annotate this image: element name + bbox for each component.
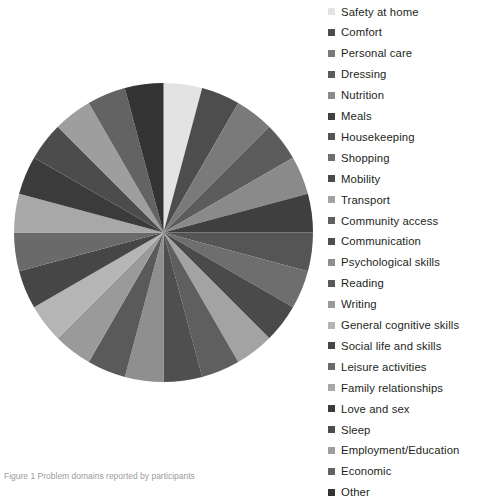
legend-swatch-icon: [328, 301, 335, 308]
legend-item-label: Communication: [341, 235, 421, 247]
legend-item[interactable]: Mobility: [328, 168, 380, 189]
legend-item-label: Love and sex: [341, 403, 410, 415]
legend-item-label: Writing: [341, 298, 377, 310]
legend-item[interactable]: Community access: [328, 210, 438, 231]
legend-swatch-icon: [328, 175, 335, 182]
legend-swatch-icon: [328, 342, 335, 349]
legend-swatch-icon: [328, 468, 335, 475]
legend-item[interactable]: Comfort: [328, 22, 382, 43]
legend-swatch-icon: [328, 133, 335, 140]
legend-swatch-icon: [328, 196, 335, 203]
legend-swatch-icon: [328, 322, 335, 329]
legend-item-label: Transport: [341, 194, 390, 206]
legend-item-label: Employment/Education: [341, 444, 459, 456]
legend-item[interactable]: Love and sex: [328, 398, 410, 419]
legend-item-label: Psychological skills: [341, 256, 440, 268]
legend-swatch-icon: [328, 154, 335, 161]
legend-item[interactable]: Family relationships: [328, 377, 443, 398]
legend-item[interactable]: Social life and skills: [328, 335, 441, 356]
legend-swatch-icon: [328, 405, 335, 412]
legend-item[interactable]: General cognitive skills: [328, 315, 459, 336]
legend-swatch-icon: [328, 217, 335, 224]
legend-item[interactable]: Meals: [328, 106, 372, 127]
legend-item-label: Nutrition: [341, 89, 384, 101]
legend-item-label: Dressing: [341, 68, 386, 80]
legend-swatch-icon: [328, 259, 335, 266]
figure-caption: Figure 1 Problem domains reported by par…: [4, 471, 304, 482]
legend-item[interactable]: Transport: [328, 189, 390, 210]
legend-swatch-icon: [328, 489, 335, 496]
legend-item-label: Reading: [341, 277, 384, 289]
legend-item[interactable]: Sleep: [328, 419, 370, 440]
legend-item[interactable]: Employment/Education: [328, 440, 459, 461]
legend-item[interactable]: Shopping: [328, 147, 390, 168]
legend-item-label: Economic: [341, 465, 392, 477]
legend-item-label: Leisure activities: [341, 361, 427, 373]
legend-item[interactable]: Writing: [328, 294, 377, 315]
legend-item-label: Comfort: [341, 26, 382, 38]
legend-swatch-icon: [328, 238, 335, 245]
legend-item[interactable]: Safety at home: [328, 1, 419, 22]
legend-swatch-icon: [328, 92, 335, 99]
legend-swatch-icon: [328, 384, 335, 391]
legend-item[interactable]: Communication: [328, 231, 421, 252]
legend-swatch-icon: [328, 280, 335, 287]
legend-item[interactable]: Leisure activities: [328, 356, 427, 377]
legend-item-label: Mobility: [341, 173, 380, 185]
legend-item[interactable]: Other: [328, 482, 370, 500]
legend-item-label: Social life and skills: [341, 340, 441, 352]
pie-chart-svg: [14, 83, 313, 382]
legend-item[interactable]: Dressing: [328, 64, 386, 85]
legend-item-label: Personal care: [341, 47, 412, 59]
legend-item-label: Other: [341, 486, 370, 498]
legend-item-label: General cognitive skills: [341, 319, 459, 331]
legend-swatch-icon: [328, 363, 335, 370]
legend-swatch-icon: [328, 113, 335, 120]
pie-chart: [14, 83, 313, 382]
legend-item-label: Housekeeping: [341, 131, 415, 143]
legend-item[interactable]: Personal care: [328, 43, 412, 64]
legend-swatch-icon: [328, 8, 335, 15]
legend-item-label: Sleep: [341, 424, 370, 436]
legend-swatch-icon: [328, 426, 335, 433]
legend-item[interactable]: Economic: [328, 461, 392, 482]
legend-item-label: Safety at home: [341, 6, 419, 18]
legend-swatch-icon: [328, 447, 335, 454]
chart-legend: Safety at homeComfortPersonal careDressi…: [328, 0, 481, 478]
legend-item[interactable]: Psychological skills: [328, 252, 440, 273]
legend-item-label: Community access: [341, 215, 438, 227]
legend-item-label: Meals: [341, 110, 372, 122]
legend-item-label: Family relationships: [341, 382, 443, 394]
legend-swatch-icon: [328, 50, 335, 57]
legend-item-label: Shopping: [341, 152, 390, 164]
legend-swatch-icon: [328, 71, 335, 78]
pie-slice-group: [14, 83, 313, 382]
legend-item[interactable]: Reading: [328, 273, 384, 294]
legend-swatch-icon: [328, 29, 335, 36]
legend-item[interactable]: Housekeeping: [328, 126, 415, 147]
legend-item[interactable]: Nutrition: [328, 85, 384, 106]
